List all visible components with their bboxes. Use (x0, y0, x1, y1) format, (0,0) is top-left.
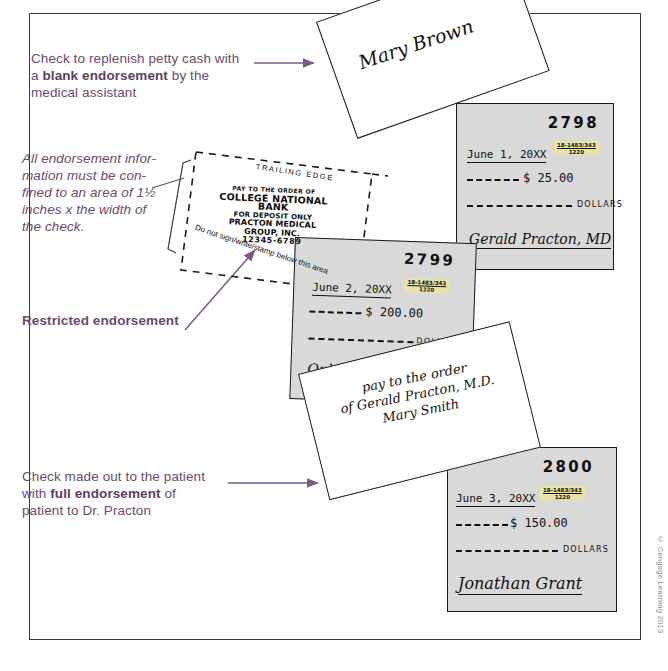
check-date: June 3, 20XX (456, 492, 535, 507)
copyright-credit: © Cengage Learning 2013 (656, 535, 665, 633)
check-number: 2798 (548, 114, 599, 132)
check-2800: 2800 June 3, 20XX 18-1483/343 1220 $ 150… (447, 447, 617, 612)
callout-mid-line-1: mation must be con- (22, 167, 187, 184)
callout-blank-endorsement: Check to replenish petty cash with a bla… (31, 50, 246, 101)
routing-fraction-bottom: 1220 (557, 148, 596, 155)
check-signature: Gerald Practon, MD (469, 231, 611, 249)
endorsement-figure: Check to replenish petty cash with a bla… (0, 0, 668, 671)
callout-top-bold: blank endorsement (42, 68, 167, 83)
routing-fraction-top: 18-1483/343 (557, 142, 596, 148)
written-amount-dash-line (456, 550, 558, 552)
full-endorsement-text: pay to the order of Gerald Practon, M.D.… (334, 354, 501, 435)
written-amount-dash-line (308, 338, 413, 344)
check-number: 2800 (543, 458, 594, 476)
blank-endorsement-signature: Mary Brown (356, 15, 476, 74)
callout-mid-line-0: All endorsement infor- (22, 150, 187, 167)
callout-bottom-bold: full endorsement (50, 486, 160, 501)
callout-mid-line-3: inches x the width of (22, 201, 187, 218)
callout-restricted-endorsement: Restricted endorsement (22, 312, 232, 329)
amount-dash-line (456, 524, 508, 526)
routing-fraction: 18-1483/343 1220 (540, 486, 585, 500)
callout-endorsement-area: All endorsement infor- mation must be co… (22, 150, 187, 235)
dollars-label: DOLLARS (577, 200, 623, 209)
check-amount: $ 200.00 (365, 305, 423, 321)
amount-dash-line (309, 311, 361, 315)
callout-mid-line-2: fined to an area of 1½ (22, 184, 187, 201)
callout-mid-line-4: the check. (22, 218, 187, 235)
check-signature: Jonathan Grant (458, 574, 582, 595)
routing-fraction: 18-1483/343 1220 (554, 141, 599, 155)
routing-fraction-bottom: 1220 (407, 285, 446, 293)
routing-fraction-top: 18-1483/343 (407, 279, 446, 286)
dollars-label: DOLLARS (563, 545, 609, 554)
check-2798: 2798 June 1, 20XX 18-1483/343 1220 $ 25.… (456, 103, 614, 270)
check-number: 2799 (404, 250, 456, 270)
check-amount: $ 25.00 (523, 171, 574, 185)
routing-fraction: 18-1483/343 1220 (404, 278, 449, 294)
routing-fraction-bottom: 1220 (543, 493, 582, 500)
callout-full-endorsement: Check made out to the patient with full … (22, 468, 217, 519)
routing-fraction-top: 18-1483/343 (543, 487, 582, 493)
check-date: June 1, 20XX (467, 148, 546, 163)
amount-dash-line (467, 179, 519, 181)
written-amount-dash-line (467, 205, 572, 207)
check-amount: $ 150.00 (510, 516, 568, 530)
check-back-endorsement-area: TRAILING EDGE PAY TO THE ORDER OF COLLEG… (177, 148, 369, 300)
